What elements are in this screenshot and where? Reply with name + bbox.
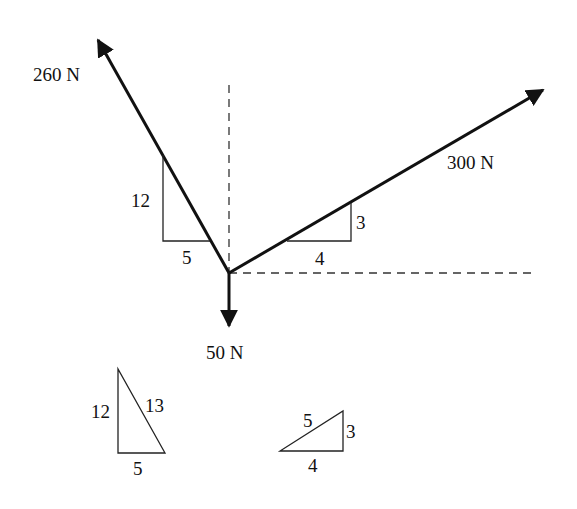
force-label-300n: 300 N [447, 152, 494, 173]
slope-label-12: 12 [131, 190, 150, 211]
force-label-260n: 260 N [33, 64, 80, 85]
ref-tri1-leg-5: 5 [133, 458, 143, 479]
ref-tri1-hyp-13: 13 [145, 395, 164, 416]
ref-tri1-leg-12: 12 [91, 401, 110, 422]
force-arrow-300n [229, 90, 543, 273]
slope-label-5: 5 [182, 247, 192, 268]
slope-label-4: 4 [315, 248, 325, 269]
force-label-50n: 50 N [206, 342, 244, 363]
ref-tri2-hyp-5: 5 [303, 410, 313, 431]
force-diagram: 260 N 12 5 300 N 3 4 50 N 12 5 13 3 4 5 [0, 0, 577, 509]
ref-tri2-leg-3: 3 [346, 421, 356, 442]
ref-tri2-leg-4: 4 [308, 455, 318, 476]
slope-label-3: 3 [356, 212, 366, 233]
